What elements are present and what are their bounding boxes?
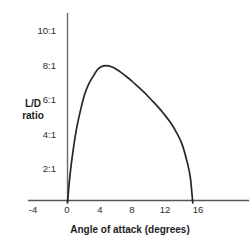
x-tick-label-16: 16	[185, 205, 211, 215]
y-tick-label-2: 2:1	[22, 164, 56, 174]
x-tick-label-4: 4	[87, 205, 113, 215]
y-tick-label-10: 10:1	[22, 26, 56, 36]
y-axis-title-line-2: ratio	[12, 110, 54, 122]
y-tick-label-8: 8:1	[22, 61, 56, 71]
chart-container: 10:1 8:1 6:1 4:1 2:1 L/D ratio -4 0 4 8 …	[0, 0, 249, 249]
x-tick-label-12: 12	[152, 205, 178, 215]
x-tick-label-minus4: -4	[20, 205, 46, 215]
y-axis-title-line-1: L/D	[12, 98, 54, 110]
x-tick-label-8: 8	[119, 205, 145, 215]
y-axis-title: L/D ratio	[12, 98, 54, 122]
y-tick-label-4: 4:1	[22, 130, 56, 140]
x-tick-label-0: 0	[54, 205, 80, 215]
x-axis-title: Angle of attack (degrees)	[30, 224, 230, 235]
data-curve-ld-ratio	[68, 66, 193, 203]
